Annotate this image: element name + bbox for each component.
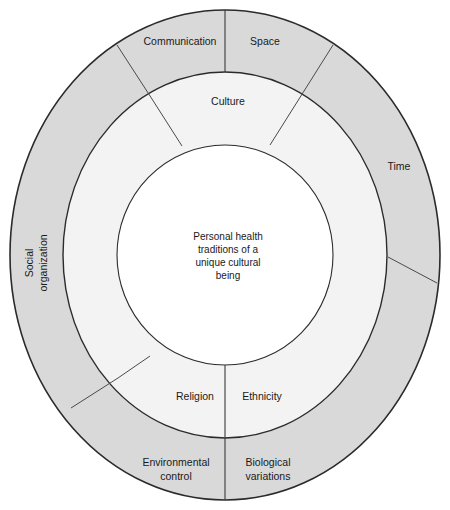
outer-label-communication: Communication [144,35,217,47]
center-text-line-2: traditions of a [198,244,258,255]
outer-label-environmental-control-line2: control [160,470,192,482]
outer-label-social-organization-line1: Social [23,249,35,278]
inner-core-boundary [117,145,333,365]
outer-label-environmental-control-line1: Environmental [142,456,209,468]
middle-label-ethnicity: Ethnicity [242,390,282,402]
outer-label-biological-variations-line2: variations [246,470,291,482]
wheel-svg: Communication Space Time Biological vari… [0,0,450,510]
cultural-health-wheel-diagram: Communication Space Time Biological vari… [0,0,450,510]
center-text-line-3: unique cultural [195,257,260,268]
outer-label-biological-variations-line1: Biological [246,456,291,468]
outer-label-space: Space [250,35,280,47]
outer-label-social-organization-line2: organization [37,234,49,291]
outer-label-time: Time [388,160,411,172]
middle-label-culture: Culture [211,95,245,107]
middle-label-religion: Religion [176,390,214,402]
center-text-line-4: being [216,270,240,281]
center-text-line-1: Personal health [193,231,263,242]
